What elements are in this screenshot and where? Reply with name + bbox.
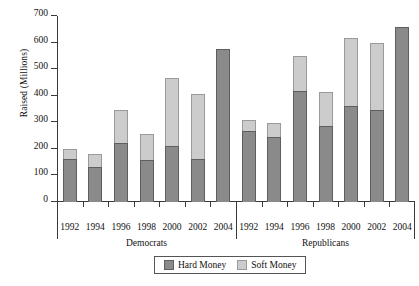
y-axis-tick-label: 0	[43, 194, 48, 204]
bar-segment-soft-money	[114, 110, 128, 143]
bar-segment-hard-money	[242, 131, 256, 202]
group-label-republicans: Republicans	[236, 238, 416, 248]
bar-segment-soft-money	[293, 56, 307, 91]
bar-segment-soft-money	[63, 149, 77, 159]
bar-democrats-1996	[114, 110, 128, 202]
bar-republicans-1992	[242, 120, 256, 202]
x-axis-tick	[287, 202, 288, 207]
y-axis-tick-label: 100	[34, 167, 48, 177]
bar-republicans-2000	[344, 38, 358, 202]
x-axis-tick	[159, 202, 160, 207]
x-axis-tick	[389, 202, 390, 207]
x-axis-tick	[134, 202, 135, 207]
bar-segment-soft-money	[344, 38, 358, 106]
x-axis-tick	[210, 202, 211, 207]
bar-segment-soft-money	[191, 94, 205, 159]
bar-segment-soft-money	[267, 123, 281, 136]
bar-segment-soft-money	[370, 43, 384, 110]
legend-swatch-hard-money-icon	[164, 260, 174, 270]
chart-legend: Hard Money Soft Money	[154, 256, 306, 274]
x-axis-tick	[108, 202, 109, 207]
bar-democrats-2002	[191, 94, 205, 202]
bar-segment-hard-money	[319, 126, 333, 202]
y-axis-tick-label: 500	[34, 61, 48, 71]
group-separator	[236, 202, 237, 239]
bar-democrats-1992	[63, 149, 77, 202]
legend-swatch-soft-money-icon	[237, 260, 247, 270]
bar-democrats-2004	[216, 49, 230, 202]
bar-segment-hard-money	[216, 49, 230, 202]
legend-item-soft-money: Soft Money	[237, 260, 296, 270]
y-axis-tick-label: 300	[34, 114, 48, 124]
y-axis-tick-label: 400	[34, 88, 48, 98]
campaign-finance-bar-chart: Raised (Millions) 0100200300400500600700…	[0, 0, 419, 286]
group-label-democrats: Democrats	[57, 238, 237, 248]
y-axis-tick-label: 700	[34, 8, 48, 18]
legend-item-hard-money: Hard Money	[164, 260, 226, 270]
x-axis-tick	[313, 202, 314, 207]
bar-segment-hard-money	[165, 146, 179, 202]
legend-label-hard-money: Hard Money	[178, 260, 226, 270]
legend-label-soft-money: Soft Money	[251, 260, 296, 270]
bars-layer	[57, 16, 415, 202]
plot-right-edge-rule	[414, 202, 415, 239]
bar-republicans-1996	[293, 56, 307, 202]
bar-democrats-2000	[165, 78, 179, 202]
x-axis-tick	[262, 202, 263, 207]
y-axis-title: Raised (Millions)	[19, 13, 29, 153]
bar-segment-hard-money	[293, 91, 307, 202]
bar-segment-hard-money	[140, 160, 154, 202]
plot-area: 0100200300400500600700 19921994199619982…	[57, 16, 415, 202]
x-axis-tick	[185, 202, 186, 207]
bar-segment-hard-money	[191, 159, 205, 202]
bar-segment-hard-money	[267, 137, 281, 202]
bar-segment-soft-money	[165, 78, 179, 146]
bar-segment-soft-money	[319, 92, 333, 126]
x-axis-tick	[364, 202, 365, 207]
bar-segment-hard-money	[395, 27, 409, 202]
bar-republicans-2002	[370, 43, 384, 202]
bar-segment-hard-money	[114, 143, 128, 202]
y-axis-tick-label: 200	[34, 141, 48, 151]
bar-segment-soft-money	[88, 154, 102, 167]
plot-left-edge-rule	[57, 202, 58, 239]
bar-republicans-1994	[267, 123, 281, 202]
bar-segment-hard-money	[344, 106, 358, 202]
y-axis-tick-label: 600	[34, 35, 48, 45]
bar-segment-soft-money	[242, 120, 256, 132]
bar-segment-hard-money	[370, 110, 384, 202]
bar-democrats-1998	[140, 134, 154, 202]
x-axis-tick	[83, 202, 84, 207]
bar-republicans-2004	[395, 27, 409, 202]
bar-segment-hard-money	[63, 159, 77, 202]
bar-segment-hard-money	[88, 167, 102, 202]
bar-segment-soft-money	[140, 134, 154, 160]
bar-democrats-1994	[88, 154, 102, 202]
bar-republicans-1998	[319, 92, 333, 202]
x-axis-tick	[338, 202, 339, 207]
